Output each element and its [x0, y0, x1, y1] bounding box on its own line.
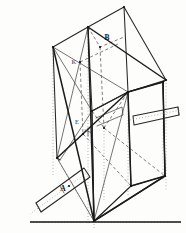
label-k: K — [72, 58, 77, 65]
technical-drawing-canvas: ABKE — [0, 0, 186, 233]
vertex-marker-1 — [123, 6, 125, 8]
vertex-marker-8 — [130, 185, 132, 187]
vertex-marker-3 — [165, 79, 167, 81]
vertex-marker-12 — [103, 127, 105, 129]
label-b: B — [104, 33, 109, 42]
vertex-marker-5 — [127, 91, 129, 93]
vertex-marker-7 — [56, 157, 58, 159]
vertex-marker-9 — [164, 175, 166, 177]
line-drawing-figure: ABKE — [0, 0, 186, 233]
vertex-marker-10 — [93, 220, 95, 222]
vertex-marker-4 — [162, 81, 164, 83]
vertex-marker-14 — [82, 133, 84, 135]
vertex-marker-11 — [99, 46, 101, 48]
label-a: A — [60, 184, 66, 193]
label-e: E — [75, 118, 79, 125]
vertex-marker-2 — [52, 46, 54, 48]
vertex-marker-0 — [87, 26, 89, 28]
vertex-marker-6 — [91, 110, 93, 112]
vertex-marker-15 — [68, 185, 70, 187]
vertex-marker-13 — [79, 61, 81, 63]
